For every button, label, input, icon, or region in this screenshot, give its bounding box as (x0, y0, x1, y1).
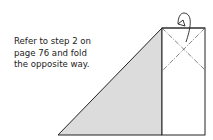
paper-rectangle (162, 28, 205, 135)
triangle-flap (58, 28, 162, 135)
origami-diagram (0, 0, 213, 140)
